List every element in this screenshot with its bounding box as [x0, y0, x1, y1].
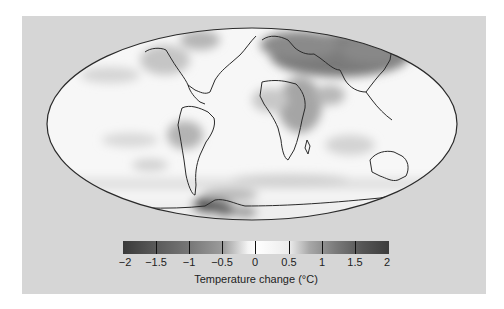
colorbar-tick-label: 1.5 — [347, 256, 362, 268]
colorbar-tick-label: −0.5 — [211, 256, 233, 268]
colorbar-tick-label: 2 — [384, 256, 390, 268]
colorbar-tick-label: 0 — [252, 256, 258, 268]
colorbar-tick-label: −1 — [183, 256, 196, 268]
colorbar-tick — [189, 241, 190, 254]
colorbar-tick — [156, 241, 157, 254]
colorbar-tick — [322, 241, 323, 254]
colorbar-tick-label: 1 — [319, 256, 325, 268]
colorbar-tick — [222, 241, 223, 254]
colorbar-tick-label: −2 — [119, 256, 132, 268]
colorbar-tick-label: 0.5 — [281, 256, 296, 268]
colorbar-tick-label: −1.5 — [145, 256, 167, 268]
colorbar-title: Temperature change (°C) — [194, 273, 318, 285]
colorbar-tick — [355, 241, 356, 254]
colorbar-tick — [289, 241, 290, 254]
temperature-field — [40, 20, 470, 230]
colorbar-tick — [255, 241, 256, 254]
colorbar — [123, 241, 389, 254]
